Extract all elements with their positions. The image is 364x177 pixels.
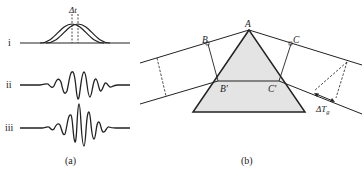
panel-b-caption: (b)	[241, 155, 253, 167]
point-a-label: A	[244, 19, 251, 29]
row-label-i: i	[8, 37, 11, 48]
group-delay-arrow	[316, 94, 333, 101]
exit-wavefront-dashed	[336, 62, 347, 98]
panel-b: A B C B′ C′ ΔTg (b)	[140, 19, 362, 167]
point-b-label: B	[202, 35, 208, 45]
point-c-label: C	[293, 35, 300, 45]
point-b-prime-label: B′	[220, 84, 229, 94]
figure: i Δt ii iii (a)	[0, 0, 364, 177]
row-label-ii: ii	[6, 79, 12, 90]
incident-wavefront-dashed	[157, 58, 166, 96]
point-c-prime-label: C′	[268, 84, 277, 94]
pulse-ii	[20, 72, 130, 99]
row-label-iii: iii	[5, 122, 14, 133]
pulse-iii	[20, 104, 130, 146]
wavefront-cc	[279, 44, 291, 81]
delta-t-label: Δt	[68, 5, 77, 15]
wavefront-bb	[208, 44, 218, 81]
group-delay-label: ΔTg	[315, 104, 330, 115]
pulse-front-dashed	[314, 62, 347, 91]
panel-a: i Δt ii iii (a)	[5, 5, 130, 167]
panel-a-caption: (a)	[65, 155, 76, 167]
